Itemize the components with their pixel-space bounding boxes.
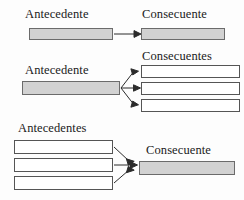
arrow-head-row3-2: [131, 162, 138, 168]
diagram-canvas: Antecedente Consecuente Antecedente Cons…: [0, 0, 244, 200]
row-many-to-one: Antecedentes Consecuente: [0, 0, 244, 200]
arrows-row3: [0, 0, 244, 200]
